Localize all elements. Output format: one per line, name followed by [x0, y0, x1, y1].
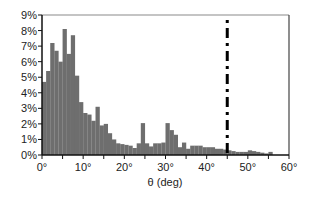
- histogram-bar: [128, 146, 132, 155]
- y-tick-label: 0%: [21, 149, 37, 161]
- x-tick-label: 40°: [198, 161, 215, 173]
- histogram-bar: [161, 143, 165, 155]
- y-tick-label: 3%: [21, 102, 37, 114]
- histogram-bar: [203, 147, 207, 155]
- histogram-bar: [190, 146, 194, 155]
- x-tick-label: 10°: [75, 161, 92, 173]
- histogram-bar: [166, 123, 170, 155]
- y-tick-label: 6%: [21, 56, 37, 68]
- histogram-bar: [149, 146, 153, 155]
- histogram-bar: [67, 54, 71, 155]
- histogram-bar: [96, 107, 100, 155]
- histogram-bar: [116, 143, 120, 155]
- y-tick-label: 8%: [21, 25, 37, 37]
- histogram-bar: [145, 143, 149, 155]
- y-tick-label: 2%: [21, 118, 37, 130]
- histogram-bar: [120, 144, 124, 155]
- x-tick-label: 30°: [157, 161, 174, 173]
- histogram-bar: [198, 146, 202, 155]
- histogram-bar: [182, 143, 186, 155]
- x-tick-label: 60°: [281, 161, 298, 173]
- histogram-bar: [63, 29, 67, 155]
- y-tick-label: 1%: [21, 133, 37, 145]
- histogram-bar: [178, 147, 182, 155]
- histogram-bar: [194, 146, 198, 155]
- x-tick-label: 50°: [240, 161, 257, 173]
- histogram-bar: [104, 124, 108, 155]
- histogram-bar: [174, 135, 178, 155]
- histogram-bar: [87, 115, 91, 155]
- histogram-bar: [108, 133, 112, 155]
- histogram-bar: [215, 149, 219, 155]
- histogram-bar: [91, 121, 95, 155]
- histogram-bar: [157, 143, 161, 155]
- histogram-bar: [83, 113, 87, 155]
- histogram-bar: [211, 147, 215, 155]
- histogram-bar: [58, 62, 62, 155]
- x-axis-title: θ (deg): [148, 176, 183, 188]
- histogram-bar: [207, 147, 211, 155]
- histogram-chart: 0%1%2%3%4%5%6%7%8%9% 0°10°20°30°40°50°60…: [0, 0, 313, 203]
- histogram-bar: [75, 76, 79, 155]
- histogram-bar: [100, 125, 104, 155]
- histogram-bar: [170, 130, 174, 155]
- histogram-bar: [153, 143, 157, 155]
- y-tick-label: 9%: [21, 9, 37, 21]
- histogram-bar: [124, 145, 128, 155]
- y-axis-ticks: 0%1%2%3%4%5%6%7%8%9%: [21, 9, 42, 161]
- x-tick-label: 0°: [37, 161, 48, 173]
- histogram-bars: [42, 29, 273, 155]
- y-tick-label: 7%: [21, 40, 37, 52]
- histogram-bar: [50, 43, 54, 155]
- histogram-bar: [186, 149, 190, 155]
- histogram-bar: [137, 143, 141, 155]
- x-tick-label: 20°: [116, 161, 133, 173]
- histogram-bar: [219, 149, 223, 155]
- y-tick-label: 4%: [21, 87, 37, 99]
- y-tick-label: 5%: [21, 71, 37, 83]
- histogram-bar: [79, 102, 83, 155]
- histogram-bar: [133, 148, 137, 155]
- x-axis-ticks: 0°10°20°30°40°50°60°: [37, 155, 298, 173]
- histogram-bar: [141, 123, 145, 155]
- histogram-bar: [54, 51, 58, 155]
- histogram-bar: [71, 35, 75, 155]
- histogram-bar: [46, 71, 50, 155]
- histogram-bar: [112, 139, 116, 155]
